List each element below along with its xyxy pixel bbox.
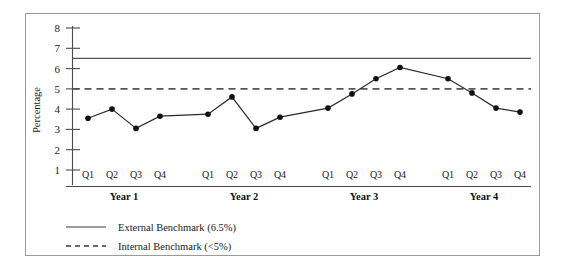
- data-point: [277, 114, 283, 120]
- figure-container: 8 7 6 5 4 3 2 1 Percentage: [0, 0, 563, 270]
- x-tick-labels: Q1 Q2 Q3 Q4 Q1 Q2 Q3 Q4 Q1 Q2 Q3 Q4 Q1 Q…: [82, 169, 526, 180]
- data-point: [349, 91, 355, 97]
- year-group-label: Year 4: [470, 191, 499, 202]
- data-point: [253, 126, 259, 132]
- y-axis-title: Percentage: [31, 87, 42, 133]
- x-tick-label: Q4: [154, 169, 166, 180]
- x-tick-label: Q3: [130, 169, 142, 180]
- data-point: [445, 76, 451, 82]
- x-tick-label: Q3: [370, 169, 382, 180]
- legend-label-internal: Internal Benchmark (<5%): [118, 241, 232, 253]
- x-tick-label: Q1: [322, 169, 334, 180]
- year-group-label: Year 2: [230, 191, 259, 202]
- x-tick-label: Q3: [250, 169, 262, 180]
- data-point: [397, 65, 403, 71]
- x-tick-label: Q4: [394, 169, 406, 180]
- data-point: [469, 90, 475, 96]
- x-tick-label: Q1: [202, 169, 214, 180]
- data-point: [157, 113, 163, 119]
- y-tick-label-6: 6: [55, 63, 61, 75]
- y-tick-label-8: 8: [55, 22, 61, 34]
- year-group-label: Year 3: [350, 191, 379, 202]
- x-tick-label: Q4: [514, 169, 526, 180]
- series-line-percentage: [88, 68, 520, 129]
- y-tick-label-1: 1: [55, 164, 61, 176]
- x-tick-label: Q1: [82, 169, 94, 180]
- chart-legend: External Benchmark (6.5%) Internal Bench…: [66, 222, 237, 253]
- data-point: [517, 109, 523, 115]
- data-point: [493, 105, 499, 111]
- y-tick-label-2: 2: [55, 144, 61, 156]
- y-tick-label-7: 7: [55, 42, 61, 54]
- data-point: [133, 126, 139, 132]
- y-tick-label-5: 5: [55, 83, 61, 95]
- y-tick-label-3: 3: [55, 123, 61, 135]
- data-point: [229, 94, 235, 100]
- legend-label-external: External Benchmark (6.5%): [118, 222, 237, 234]
- data-point: [325, 105, 331, 111]
- data-point: [373, 76, 379, 82]
- x-tick-label: Q3: [490, 169, 502, 180]
- x-tick-label: Q2: [466, 169, 478, 180]
- data-point: [85, 116, 91, 122]
- x-tick-label: Q2: [346, 169, 358, 180]
- y-tick-label-4: 4: [55, 103, 61, 115]
- data-point: [109, 106, 115, 112]
- x-tick-label: Q2: [106, 169, 118, 180]
- data-point: [205, 111, 211, 117]
- x-group-labels: Year 1 Year 2 Year 3 Year 4: [110, 191, 499, 202]
- year-group-label: Year 1: [110, 191, 139, 202]
- x-tick-label: Q1: [442, 169, 454, 180]
- x-tick-label: Q2: [226, 169, 238, 180]
- line-chart: 8 7 6 5 4 3 2 1 Percentage: [0, 0, 563, 270]
- x-tick-label: Q4: [274, 169, 286, 180]
